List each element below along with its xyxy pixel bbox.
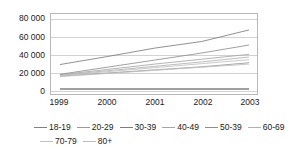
y-tick-label-20000: 20 000	[19, 69, 45, 78]
series-line-20-29	[60, 63, 249, 76]
legend-label: 80+	[98, 136, 112, 146]
series-line-30-39	[60, 30, 249, 65]
legend-label: 50-39	[220, 122, 242, 132]
legend-swatch-line-icon	[40, 141, 53, 142]
legend-swatch-line-icon	[120, 127, 133, 128]
legend-row-2: 70-7980+	[0, 134, 291, 148]
x-tick-label-2001: 2001	[146, 97, 165, 108]
plot-container: 80 000 60 000 40 000 20 000 0 1999 2000 …	[0, 0, 291, 120]
y-tick-label-40000: 40 000	[19, 51, 45, 60]
y-tick-label-0: 0	[40, 87, 45, 96]
legend-label: 70-79	[55, 136, 77, 146]
legend-item-50-39[interactable]: 50-39	[205, 122, 242, 132]
legend-item-18-19[interactable]: 18-19	[34, 122, 71, 132]
y-axis-labels: 80 000 60 000 40 000 20 000 0	[0, 0, 48, 120]
legend-label: 40-49	[177, 122, 199, 132]
chart-legend: 18-1920-2930-3940-4950-3960-69 70-7980+	[0, 120, 291, 159]
legend-label: 20-29	[92, 122, 114, 132]
legend-item-40-49[interactable]: 40-49	[162, 122, 199, 132]
legend-label: 18-19	[49, 122, 71, 132]
x-axis-labels: 1999 2000 2001 2002 2003	[50, 97, 258, 113]
legend-swatch-line-icon	[77, 127, 90, 128]
line-chart: 80 000 60 000 40 000 20 000 0 1999 2000 …	[0, 0, 291, 159]
legend-swatch-line-icon	[34, 127, 47, 128]
legend-label: 30-39	[135, 122, 157, 132]
legend-swatch-line-icon	[205, 127, 218, 128]
x-tick-label-2003: 2003	[241, 97, 260, 108]
plot-area	[50, 13, 258, 95]
x-tick-label-1999: 1999	[50, 97, 69, 108]
series-line-70-79	[60, 60, 249, 76]
y-tick-label-60000: 60 000	[19, 33, 45, 42]
legend-item-80plus[interactable]: 80+	[83, 136, 112, 146]
legend-swatch-line-icon	[162, 127, 175, 128]
legend-label: 60-69	[263, 122, 285, 132]
x-tick-label-2002: 2002	[194, 97, 213, 108]
legend-item-20-29[interactable]: 20-29	[77, 122, 114, 132]
legend-row-1: 18-1920-2930-3940-4950-3960-69	[0, 120, 291, 134]
legend-item-30-39[interactable]: 30-39	[120, 122, 157, 132]
legend-swatch-line-icon	[83, 141, 96, 142]
series-lines	[51, 14, 257, 94]
legend-item-60-69[interactable]: 60-69	[248, 122, 285, 132]
y-tick-label-80000: 80 000	[19, 14, 45, 23]
x-tick-label-2000: 2000	[98, 97, 117, 108]
legend-item-70-79[interactable]: 70-79	[40, 136, 77, 146]
series-line-40-49	[60, 54, 249, 74]
legend-swatch-line-icon	[248, 127, 261, 128]
